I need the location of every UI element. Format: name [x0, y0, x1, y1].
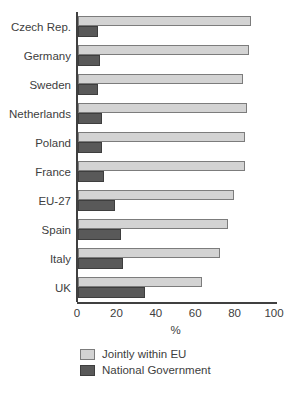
legend-swatch-jointly-icon [80, 349, 95, 360]
bar-group [76, 70, 275, 99]
x-axis-line [77, 302, 277, 304]
chart-row: Poland [0, 128, 277, 157]
category-label: France [0, 157, 76, 186]
chart-row: Netherlands [0, 99, 277, 128]
bar-national-government [78, 55, 100, 66]
category-label: Italy [0, 244, 76, 273]
chart-row: UK [0, 273, 277, 302]
bar-national-government [78, 142, 102, 153]
category-label: Netherlands [0, 99, 76, 128]
bar-national-government [78, 171, 104, 182]
legend-label-jointly: Jointly within EU [102, 348, 186, 360]
category-label: Sweden [0, 70, 76, 99]
bar-jointly-within-eu [78, 248, 220, 258]
bar-national-government [78, 258, 123, 269]
chart-row: EU-27 [0, 186, 277, 215]
bar-group [76, 186, 275, 215]
x-tick-label: 80 [228, 307, 241, 319]
bar-national-government [78, 26, 98, 37]
bar-jointly-within-eu [78, 103, 247, 113]
plot-area: Czech Rep.GermanySwedenNetherlandsPoland… [0, 12, 277, 302]
bar-national-government [78, 113, 102, 124]
chart-row: Germany [0, 41, 277, 70]
category-label: Poland [0, 128, 76, 157]
bar-jointly-within-eu [78, 161, 245, 171]
x-tick-label: 60 [189, 307, 202, 319]
chart-row: Czech Rep. [0, 12, 277, 41]
bar-jointly-within-eu [78, 219, 228, 229]
legend-swatch-national-icon [80, 365, 95, 376]
bar-chart-figure: Czech Rep.GermanySwedenNetherlandsPoland… [0, 0, 289, 393]
bar-group [76, 273, 275, 302]
bar-jointly-within-eu [78, 45, 249, 55]
bar-jointly-within-eu [78, 190, 234, 200]
category-label: EU-27 [0, 186, 76, 215]
bar-group [76, 128, 275, 157]
chart-row: Spain [0, 215, 277, 244]
legend-item-jointly: Jointly within EU [80, 348, 211, 360]
bar-jointly-within-eu [78, 74, 243, 84]
x-tick-label: 100 [264, 307, 283, 319]
bar-jointly-within-eu [78, 16, 251, 26]
legend-label-national: National Government [102, 364, 211, 376]
x-tick-label: 40 [149, 307, 162, 319]
x-tick-label: 20 [110, 307, 123, 319]
bar-jointly-within-eu [78, 277, 202, 287]
category-label: Czech Rep. [0, 12, 76, 41]
x-axis-label: % [77, 324, 274, 336]
chart-row: Sweden [0, 70, 277, 99]
bar-national-government [78, 229, 121, 240]
legend: Jointly within EU National Government [80, 348, 211, 380]
category-label: Spain [0, 215, 76, 244]
chart-row: Italy [0, 244, 277, 273]
x-tick-label: 0 [74, 307, 80, 319]
bar-national-government [78, 200, 115, 211]
category-label: Germany [0, 41, 76, 70]
category-label: UK [0, 273, 76, 302]
bar-group [76, 12, 275, 41]
bar-national-government [78, 287, 145, 298]
bar-group [76, 99, 275, 128]
bar-group [76, 41, 275, 70]
bar-group [76, 157, 275, 186]
bar-group [76, 244, 275, 273]
x-axis-ticks: 020406080100 [77, 307, 274, 321]
legend-item-national: National Government [80, 364, 211, 376]
bar-national-government [78, 84, 98, 95]
bar-jointly-within-eu [78, 132, 245, 142]
chart-row: France [0, 157, 277, 186]
bar-group [76, 215, 275, 244]
